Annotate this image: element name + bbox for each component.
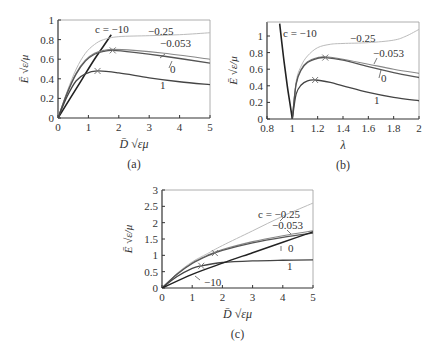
y-tick-label: 1 [153,249,159,261]
series-line [292,80,419,119]
series-label: 1 [160,79,166,91]
label-leader [195,276,200,280]
y-axis-label: Ē √ε/μ [18,54,30,84]
x-tick-label: 1.6 [361,122,375,134]
series-label: −0.25 [148,25,174,37]
series-line [292,57,419,119]
x-tick-label: 0 [159,291,165,303]
y-tick-label: 0 [153,282,159,294]
x-tick-label: 4 [177,121,183,133]
y-tick-label: 0 [49,112,55,124]
panel-caption: (c) [231,327,244,341]
series-label: −10 [204,276,222,288]
y-tick-label: 0.8 [40,34,54,46]
x-tick-label: 2 [116,121,122,133]
x-tick-label: 2 [416,122,422,134]
series-label: −0.053 [373,47,404,59]
y-tick-label: 1 [258,30,264,42]
series-label: 0 [170,63,176,75]
y-tick-label: 0 [258,113,264,125]
panel-c: 01234500.511.522.53c = −0.25−0.05301−10D… [122,184,316,341]
x-tick-label: 1 [290,122,296,134]
y-tick-label: 0.4 [40,73,54,85]
y-axis-label: Ē √ε/μ [227,56,239,86]
x-tick-label: 1.4 [336,122,350,134]
panel-caption: (a) [127,157,140,171]
y-tick-label: 3 [153,184,159,196]
x-tick-label: 3 [146,121,152,133]
series-label: −0.25 [350,32,376,44]
y-tick-label: 2.5 [144,200,158,212]
figure: 01234500.20.40.60.81c = −10−0.25−0.05301… [0,0,441,355]
series-label: 0 [288,242,294,254]
series-line [292,57,419,119]
panel-a: 01234500.20.40.60.81c = −10−0.25−0.05301… [18,14,213,171]
y-tick-label: 1 [49,14,55,26]
series-label: 1 [287,260,293,272]
x-tick-label: 5 [207,121,213,133]
x-tick-label: 3 [250,291,256,303]
x-tick-label: 1.2 [311,122,325,134]
x-tick-label: 1.8 [387,122,401,134]
y-tick-label: 0.8 [249,47,263,59]
panel-b: 0.811.21.41.61.8200.20.40.60.81c = −10−0… [227,22,422,172]
x-axis-label: D̄ √εμ [222,307,252,321]
x-tick-label: 1 [86,121,92,133]
series-line [58,35,111,118]
y-tick-label: 0.4 [249,80,263,92]
y-tick-label: 0.6 [40,53,54,65]
y-tick-label: 2 [153,217,159,229]
x-axis-label: λ [339,138,345,152]
x-tick-label: 2 [220,291,226,303]
x-axis-label: D̄ √εμ [118,137,148,151]
x-tick-label: 0 [55,121,61,133]
y-tick-label: 0.5 [144,266,158,278]
y-tick-label: 0.2 [40,92,54,104]
y-tick-label: 0.6 [249,63,263,75]
series-label: c = −10 [95,23,129,35]
x-tick-label: 1 [189,291,195,303]
y-tick-label: 1.5 [144,233,158,245]
panel-caption: (b) [336,158,350,172]
series-label: −0.053 [272,219,303,231]
series-label: −0.053 [160,37,191,49]
series-label: 0 [381,72,387,84]
y-axis-label: Ē √ε/μ [122,224,134,254]
x-tick-label: 5 [310,291,316,303]
x-tick-label: 4 [280,291,286,303]
series-line [58,71,210,118]
series-label: 1 [374,94,380,106]
y-tick-label: 0.2 [249,96,263,108]
series-label: c = −10 [283,27,317,39]
